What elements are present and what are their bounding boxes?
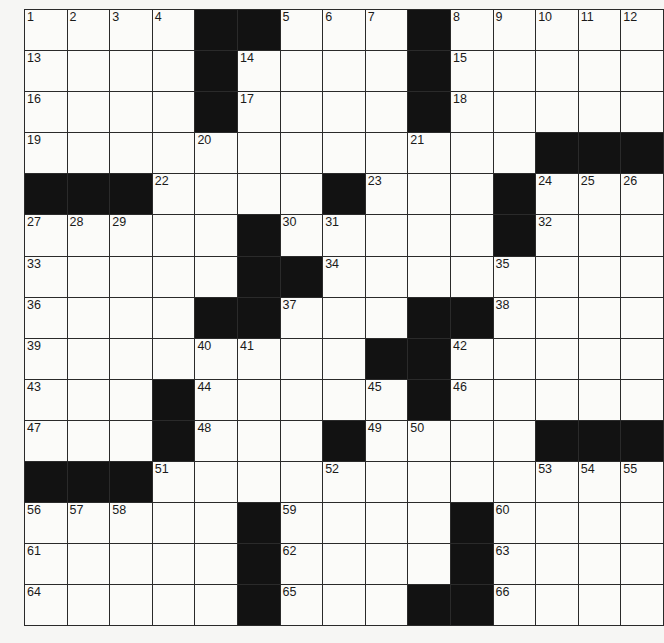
- crossword-cell[interactable]: [366, 298, 409, 339]
- crossword-cell[interactable]: [153, 298, 196, 339]
- crossword-cell[interactable]: [323, 298, 366, 339]
- crossword-cell[interactable]: [153, 339, 196, 380]
- crossword-cell[interactable]: [323, 503, 366, 544]
- crossword-cell[interactable]: 45: [366, 380, 409, 421]
- crossword-cell[interactable]: 60: [494, 503, 537, 544]
- crossword-cell[interactable]: [110, 585, 153, 626]
- crossword-cell[interactable]: [153, 215, 196, 256]
- crossword-cell[interactable]: 24: [536, 174, 579, 215]
- crossword-cell[interactable]: [408, 503, 451, 544]
- crossword-cell[interactable]: 41: [238, 339, 281, 380]
- crossword-cell[interactable]: [494, 339, 537, 380]
- crossword-cell[interactable]: [451, 174, 494, 215]
- crossword-cell[interactable]: [153, 133, 196, 174]
- crossword-cell[interactable]: 56: [25, 503, 68, 544]
- crossword-cell[interactable]: 19: [25, 133, 68, 174]
- crossword-cell[interactable]: [110, 339, 153, 380]
- crossword-cell[interactable]: [536, 339, 579, 380]
- crossword-cell[interactable]: [408, 462, 451, 503]
- crossword-cell[interactable]: 12: [621, 10, 664, 51]
- crossword-cell[interactable]: [195, 585, 238, 626]
- crossword-cell[interactable]: [408, 544, 451, 585]
- crossword-cell[interactable]: [366, 133, 409, 174]
- crossword-cell[interactable]: 10: [536, 10, 579, 51]
- crossword-cell[interactable]: [621, 380, 664, 421]
- crossword-cell[interactable]: 7: [366, 10, 409, 51]
- crossword-cell[interactable]: [579, 339, 622, 380]
- crossword-cell[interactable]: [323, 51, 366, 92]
- crossword-cell[interactable]: [494, 380, 537, 421]
- crossword-cell[interactable]: 57: [68, 503, 111, 544]
- crossword-cell[interactable]: 40: [195, 339, 238, 380]
- crossword-cell[interactable]: 5: [281, 10, 324, 51]
- crossword-cell[interactable]: [195, 215, 238, 256]
- crossword-cell[interactable]: [579, 92, 622, 133]
- crossword-cell[interactable]: [238, 133, 281, 174]
- crossword-cell[interactable]: [621, 585, 664, 626]
- crossword-cell[interactable]: 55: [621, 462, 664, 503]
- crossword-cell[interactable]: [621, 544, 664, 585]
- crossword-cell[interactable]: [494, 92, 537, 133]
- crossword-cell[interactable]: 46: [451, 380, 494, 421]
- crossword-cell[interactable]: [494, 462, 537, 503]
- crossword-cell[interactable]: [68, 544, 111, 585]
- crossword-cell[interactable]: [281, 92, 324, 133]
- crossword-cell[interactable]: 51: [153, 462, 196, 503]
- crossword-cell[interactable]: [195, 544, 238, 585]
- crossword-cell[interactable]: 13: [25, 51, 68, 92]
- crossword-cell[interactable]: [579, 51, 622, 92]
- crossword-cell[interactable]: [281, 51, 324, 92]
- crossword-cell[interactable]: 14: [238, 51, 281, 92]
- crossword-cell[interactable]: [621, 503, 664, 544]
- crossword-cell[interactable]: 3: [110, 10, 153, 51]
- crossword-cell[interactable]: [323, 133, 366, 174]
- crossword-cell[interactable]: [536, 380, 579, 421]
- crossword-cell[interactable]: 54: [579, 462, 622, 503]
- crossword-cell[interactable]: [238, 174, 281, 215]
- crossword-cell[interactable]: [195, 503, 238, 544]
- crossword-cell[interactable]: 50: [408, 421, 451, 462]
- crossword-cell[interactable]: [621, 92, 664, 133]
- crossword-cell[interactable]: 34: [323, 257, 366, 298]
- crossword-cell[interactable]: [621, 51, 664, 92]
- crossword-cell[interactable]: 64: [25, 585, 68, 626]
- crossword-cell[interactable]: 21: [408, 133, 451, 174]
- crossword-cell[interactable]: [323, 585, 366, 626]
- crossword-cell[interactable]: [281, 133, 324, 174]
- crossword-cell[interactable]: [238, 462, 281, 503]
- crossword-cell[interactable]: 4: [153, 10, 196, 51]
- crossword-cell[interactable]: [68, 585, 111, 626]
- crossword-cell[interactable]: [153, 544, 196, 585]
- crossword-cell[interactable]: [281, 174, 324, 215]
- crossword-cell[interactable]: [323, 92, 366, 133]
- crossword-cell[interactable]: 52: [323, 462, 366, 503]
- crossword-cell[interactable]: [579, 585, 622, 626]
- crossword-cell[interactable]: [238, 380, 281, 421]
- crossword-cell[interactable]: 53: [536, 462, 579, 503]
- crossword-cell[interactable]: [238, 421, 281, 462]
- crossword-cell[interactable]: [153, 92, 196, 133]
- crossword-cell[interactable]: [451, 257, 494, 298]
- crossword-cell[interactable]: [366, 215, 409, 256]
- crossword-cell[interactable]: 30: [281, 215, 324, 256]
- crossword-cell[interactable]: 66: [494, 585, 537, 626]
- crossword-cell[interactable]: 22: [153, 174, 196, 215]
- crossword-cell[interactable]: [68, 421, 111, 462]
- crossword-cell[interactable]: [536, 92, 579, 133]
- crossword-cell[interactable]: [451, 462, 494, 503]
- crossword-cell[interactable]: 35: [494, 257, 537, 298]
- crossword-cell[interactable]: 39: [25, 339, 68, 380]
- crossword-cell[interactable]: [536, 298, 579, 339]
- crossword-cell[interactable]: 43: [25, 380, 68, 421]
- crossword-cell[interactable]: 9: [494, 10, 537, 51]
- crossword-cell[interactable]: 33: [25, 257, 68, 298]
- crossword-cell[interactable]: 49: [366, 421, 409, 462]
- crossword-cell[interactable]: [366, 585, 409, 626]
- crossword-cell[interactable]: [281, 380, 324, 421]
- crossword-cell[interactable]: 31: [323, 215, 366, 256]
- crossword-cell[interactable]: [536, 503, 579, 544]
- crossword-cell[interactable]: 18: [451, 92, 494, 133]
- crossword-cell[interactable]: 63: [494, 544, 537, 585]
- crossword-cell[interactable]: 48: [195, 421, 238, 462]
- crossword-cell[interactable]: 6: [323, 10, 366, 51]
